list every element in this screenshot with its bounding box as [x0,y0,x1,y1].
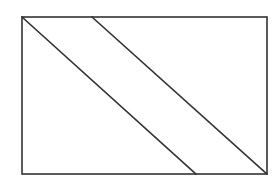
diagram-canvas [0,0,280,180]
diagonal-line-right [92,17,267,174]
rectangle-with-diagonal-band [0,0,280,180]
diagonal-line-left [22,17,196,174]
outer-rectangle [22,17,267,174]
